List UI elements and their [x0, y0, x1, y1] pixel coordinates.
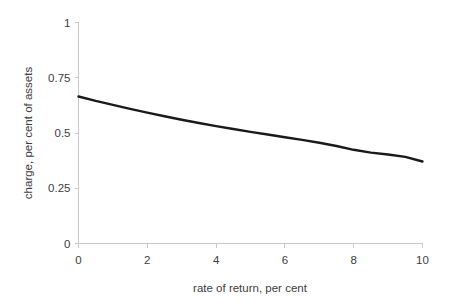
chart-container: 00.250.50.751 0246810 rate of return, pe…: [0, 0, 452, 308]
x-tick-label: 8: [350, 254, 356, 266]
x-tick-label: 4: [213, 254, 220, 266]
x-axis-title: rate of return, per cent: [193, 282, 308, 294]
y-axis-title: charge, per cent of assets: [22, 67, 34, 200]
y-axis-tick-labels: 00.250.50.751: [48, 17, 70, 250]
x-tick-label: 0: [75, 254, 81, 266]
x-axis-tick-marks: [79, 244, 423, 248]
y-tick-label: 0: [64, 238, 70, 250]
line-chart: 00.250.50.751 0246810 rate of return, pe…: [0, 0, 452, 308]
y-tick-label: 0.75: [48, 72, 70, 84]
x-axis-tick-labels: 0246810: [75, 254, 429, 266]
y-tick-label: 0.25: [48, 182, 70, 194]
charge-curve: [79, 97, 423, 162]
x-tick-label: 10: [416, 254, 429, 266]
x-tick-label: 6: [282, 254, 288, 266]
y-axis-tick-marks: [75, 23, 79, 244]
y-tick-label: 1: [64, 17, 70, 29]
y-tick-label: 0.5: [55, 127, 71, 139]
x-tick-label: 2: [144, 254, 150, 266]
